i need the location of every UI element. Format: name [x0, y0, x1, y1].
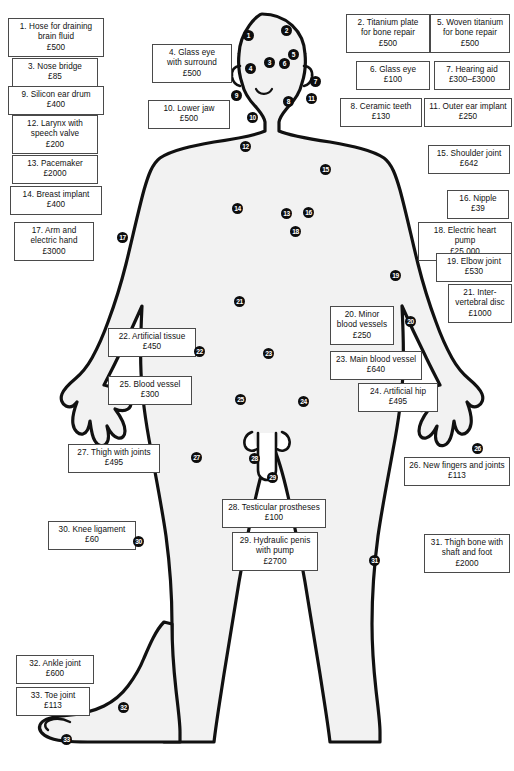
body-marker-21: 21	[234, 296, 245, 307]
body-marker-18: 18	[290, 226, 301, 237]
body-marker-26: 26	[472, 443, 483, 454]
body-marker-1: 1	[243, 30, 254, 41]
callout-box-23: 23. Main blood vessel £640	[330, 351, 422, 380]
callout-box-1: 1. Hose for draining brain fluid £500	[8, 18, 104, 57]
body-marker-27: 27	[191, 452, 202, 463]
body-marker-19: 19	[390, 270, 401, 281]
callout-box-9: 9. Silicon ear drum £400	[8, 86, 104, 115]
body-marker-5: 5	[288, 49, 299, 60]
body-marker-17: 17	[117, 232, 128, 243]
callout-box-32: 32. Ankle joint £600	[16, 655, 94, 684]
callout-box-8: 8. Ceramic teeth £130	[340, 98, 422, 127]
body-marker-33: 33	[61, 734, 72, 745]
body-marker-10: 10	[247, 112, 258, 123]
callout-box-15: 15. Shoulder joint £642	[428, 145, 510, 174]
body-marker-20: 20	[405, 316, 416, 327]
body-marker-22: 22	[194, 346, 205, 357]
body-marker-6: 6	[279, 58, 290, 69]
callout-box-24: 24. Artificial hip £495	[358, 383, 438, 412]
body-marker-32: 32	[118, 702, 129, 713]
body-marker-31: 31	[369, 555, 380, 566]
body-marker-16: 16	[303, 207, 314, 218]
body-marker-11: 11	[306, 93, 317, 104]
body-marker-14: 14	[232, 203, 243, 214]
body-marker-24: 24	[298, 396, 309, 407]
callout-box-20: 20. Minor blood vessels £250	[330, 306, 394, 345]
body-marker-23: 23	[263, 348, 274, 359]
callout-box-3: 3. Nose bridge £85	[12, 58, 98, 87]
body-marker-7: 7	[310, 76, 321, 87]
callout-box-10: 10. Lower jaw £500	[148, 100, 230, 129]
callout-box-27: 27. Thigh with joints £495	[68, 444, 160, 473]
body-marker-29: 29	[267, 472, 278, 483]
callout-box-29: 29. Hydraulic penis with pump £2700	[232, 532, 318, 571]
callout-box-25: 25. Blood vessel £300	[108, 376, 192, 405]
callout-box-11: 11. Outer ear implant £250	[424, 98, 512, 127]
callout-box-28: 28. Testicular prostheses £100	[222, 499, 326, 528]
callout-box-30: 30. Knee ligament £60	[48, 521, 136, 550]
body-marker-3: 3	[264, 57, 275, 68]
callout-box-22: 22. Artificial tissue £450	[108, 328, 196, 357]
callout-box-16: 16. Nipple £39	[447, 190, 509, 219]
callout-box-7: 7. Hearing aid £300–£3000	[434, 61, 510, 90]
infographic-canvas: 1. Hose for draining brain fluid £5003. …	[0, 0, 514, 771]
callout-box-26: 26. New fingers and joints £113	[404, 457, 510, 486]
body-marker-13: 13	[281, 208, 292, 219]
callout-box-6: 6. Glass eye £100	[356, 61, 430, 90]
body-marker-12: 12	[240, 141, 251, 152]
callout-box-13: 13. Pacemaker £2000	[12, 155, 98, 184]
body-marker-28: 28	[249, 453, 260, 464]
callout-box-12: 12. Larynx with speech valve £200	[12, 115, 98, 154]
body-marker-9: 9	[231, 90, 242, 101]
body-marker-2: 2	[281, 25, 292, 36]
callout-box-2: 2. Titanium plate for bone repair £500	[346, 14, 430, 53]
callout-box-19: 19. Elbow joint £530	[436, 253, 512, 282]
body-marker-15: 15	[320, 164, 331, 175]
body-marker-8: 8	[283, 96, 294, 107]
callout-box-33: 33. Toe joint £113	[16, 687, 90, 716]
callout-box-14: 14. Breast implant £400	[10, 186, 102, 215]
callout-box-17: 17. Arm and electric hand £3000	[14, 222, 94, 261]
body-marker-30: 30	[133, 536, 144, 547]
callout-box-21: 21. Inter- vertebral disc £1000	[448, 284, 512, 323]
callout-box-5: 5. Woven titanium for bone repair £500	[430, 14, 510, 53]
callout-box-4: 4. Glass eye with surround £500	[152, 44, 232, 83]
callout-box-31: 31. Thigh bone with shaft and foot £2000	[424, 534, 510, 573]
body-marker-25: 25	[235, 394, 246, 405]
body-marker-4: 4	[245, 63, 256, 74]
